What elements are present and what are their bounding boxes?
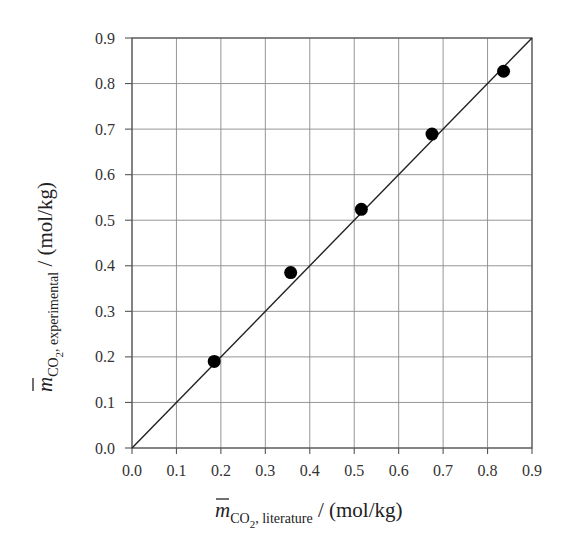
identity-line: [132, 38, 532, 448]
identity-line-path: [132, 38, 532, 448]
y-label-symbol: m: [33, 377, 57, 392]
x-tick-label: 0.2: [211, 462, 231, 479]
chart: 0.00.10.20.30.40.50.60.70.80.9 0.00.10.2…: [0, 0, 564, 556]
y-label-unit: / (mol/kg): [33, 182, 57, 272]
y-tick-label: 0.3: [95, 303, 115, 320]
y-tick-label: 0.9: [95, 30, 115, 47]
x-tick-label: 0.9: [522, 462, 542, 479]
y-tick-labels: 0.00.10.20.30.40.50.60.70.80.9: [95, 30, 115, 457]
x-label-unit: / (mol/kg): [313, 498, 403, 522]
y-tick-label: 0.7: [95, 121, 115, 138]
x-axis-label: mCO2, literature / (mol/kg): [215, 498, 402, 530]
x-tick-labels: 0.00.10.20.30.40.50.60.70.80.9: [122, 462, 542, 479]
x-tick-label: 0.8: [478, 462, 498, 479]
svg-text:mCO2, literature / (mol/kg): mCO2, literature / (mol/kg): [215, 498, 402, 530]
y-tick-label: 0.1: [95, 394, 115, 411]
y-tick-label: 0.8: [95, 75, 115, 92]
y-label-subscript-rest: , experimental: [46, 272, 61, 352]
x-tick-label: 0.4: [300, 462, 320, 479]
x-label-subscript-rest: , literature: [255, 511, 313, 526]
data-point: [355, 203, 368, 216]
y-axis-label: mCO2, experimental / (mol/kg): [33, 182, 65, 392]
y-tick-label: 0.2: [95, 348, 115, 365]
x-tick-label: 0.3: [255, 462, 275, 479]
y-label-subscript: CO: [46, 357, 61, 376]
data-point: [208, 355, 221, 368]
svg-text:mCO2, experimental / (mol/kg): mCO2, experimental / (mol/kg): [33, 182, 65, 392]
x-tick-label: 0.6: [389, 462, 409, 479]
y-tick-label: 0.6: [95, 166, 115, 183]
y-tick-label: 0.5: [95, 212, 115, 229]
data-point: [426, 128, 439, 141]
data-point: [284, 266, 297, 279]
x-tick-label: 0.1: [166, 462, 186, 479]
x-tick-label: 0.7: [433, 462, 453, 479]
y-tick-label: 0.0: [95, 440, 115, 457]
y-tick-label: 0.4: [95, 257, 115, 274]
data-point: [497, 65, 510, 78]
x-label-symbol: m: [215, 498, 230, 522]
x-tick-label: 0.5: [344, 462, 364, 479]
x-tick-label: 0.0: [122, 462, 142, 479]
x-label-subscript: CO: [230, 511, 249, 526]
